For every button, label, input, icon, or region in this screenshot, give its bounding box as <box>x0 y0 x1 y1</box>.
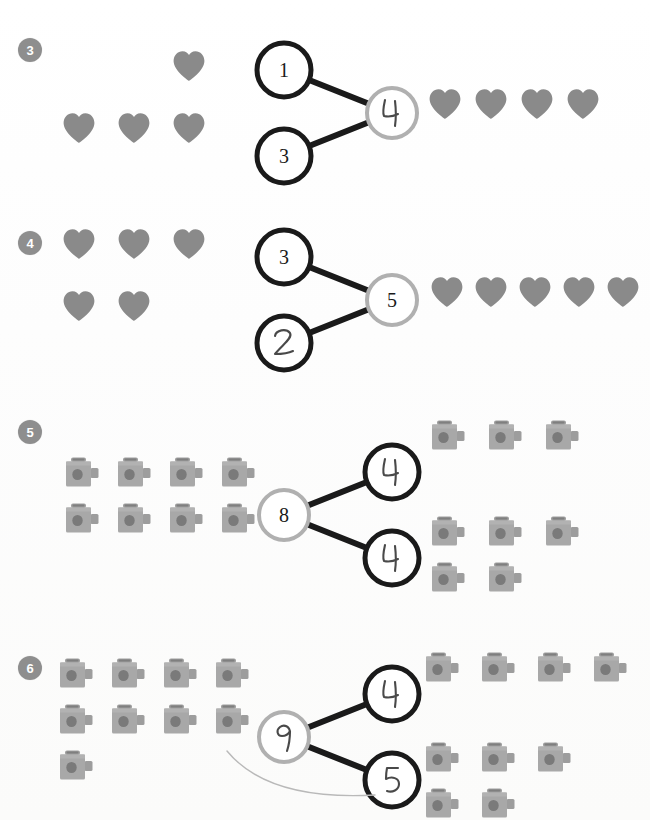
cube-icon <box>422 786 462 820</box>
heart-icon <box>172 50 206 82</box>
cube-icon <box>534 740 574 776</box>
svg-text:3: 3 <box>279 246 289 268</box>
cube-icon <box>212 656 252 692</box>
cube-icon <box>485 514 525 550</box>
cube-icon <box>62 455 102 491</box>
heart-icon <box>562 276 596 308</box>
heart-icon <box>566 88 600 120</box>
heart-icon <box>474 88 508 120</box>
bond-part-circle-2[interactable] <box>365 531 419 585</box>
svg-text:5: 5 <box>387 289 397 311</box>
cube-icon <box>485 560 525 596</box>
cube-icon <box>478 650 518 686</box>
heart-icon <box>428 88 462 120</box>
heart-icon <box>117 228 151 260</box>
cube-icon <box>160 656 200 692</box>
cube-icon <box>542 514 582 550</box>
cube-icon <box>114 455 154 491</box>
cube-icon <box>428 560 468 596</box>
worksheet-page: 313435586 <box>0 0 650 820</box>
bond-part-circle-2[interactable] <box>365 753 419 807</box>
heart-icon <box>172 228 206 260</box>
heart-icon <box>62 228 96 260</box>
heart-icon <box>518 276 552 308</box>
heart-icon <box>117 112 151 144</box>
bond-part-circle-1[interactable] <box>365 667 419 721</box>
cube-icon <box>108 702 148 738</box>
problem-number-bullet: 6 <box>18 656 42 680</box>
cube-icon <box>422 650 462 686</box>
bond-whole-circle[interactable] <box>367 88 417 138</box>
cube-icon <box>56 656 96 692</box>
heart-icon <box>117 290 151 322</box>
number-bond-6 <box>252 662 432 812</box>
cube-icon <box>478 786 518 820</box>
cube-icon <box>160 702 200 738</box>
problem-row-3: 313 <box>0 20 650 210</box>
cube-icon <box>166 501 206 537</box>
cube-icon <box>114 501 154 537</box>
cube-icon <box>428 514 468 550</box>
problem-row-4: 435 <box>0 215 650 405</box>
cube-icon <box>62 501 102 537</box>
svg-text:8: 8 <box>279 504 289 526</box>
heart-icon <box>520 88 554 120</box>
number-bond-5: 8 <box>252 440 432 590</box>
problem-number-bullet: 5 <box>18 420 42 444</box>
heart-icon <box>430 276 464 308</box>
problem-row-6: 6 <box>0 640 650 820</box>
svg-text:1: 1 <box>279 59 289 81</box>
cube-icon <box>56 702 96 738</box>
cube-icon <box>478 740 518 776</box>
heart-icon <box>62 290 96 322</box>
cube-icon <box>422 740 462 776</box>
number-bond-3: 13 <box>252 38 432 188</box>
cube-icon <box>542 418 582 454</box>
cube-icon <box>212 702 252 738</box>
svg-text:3: 3 <box>279 145 289 167</box>
heart-icon <box>62 112 96 144</box>
cube-icon <box>166 455 206 491</box>
cube-icon <box>428 418 468 454</box>
heart-icon <box>172 112 206 144</box>
cube-icon <box>108 656 148 692</box>
problem-number-bullet: 4 <box>18 231 42 255</box>
problem-number-bullet: 3 <box>18 38 42 62</box>
heart-icon <box>606 276 640 308</box>
cube-icon <box>534 650 574 686</box>
problem-row-5: 58 <box>0 408 650 618</box>
heart-icon <box>474 276 508 308</box>
cube-icon <box>590 650 630 686</box>
bond-whole-circle[interactable] <box>259 712 309 762</box>
bond-part-circle-1[interactable] <box>365 445 419 499</box>
cube-icon <box>56 748 96 784</box>
number-bond-4: 35 <box>252 225 432 375</box>
cube-icon <box>485 418 525 454</box>
